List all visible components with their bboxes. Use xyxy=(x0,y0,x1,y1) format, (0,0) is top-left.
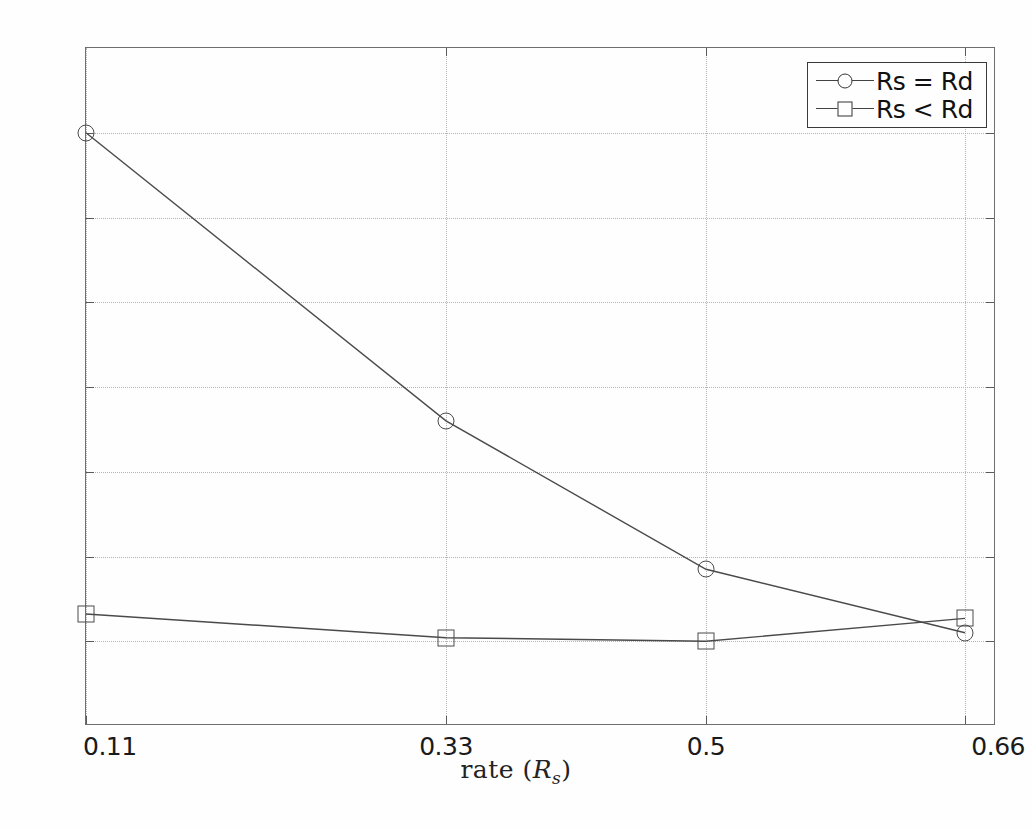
data-point-marker-circle xyxy=(698,561,715,578)
series-line-rs-eq-rd xyxy=(86,133,965,633)
legend-item-rs-eq-rd[interactable]: Rs = Rd xyxy=(814,67,980,95)
data-point-marker-square xyxy=(957,610,974,627)
data-point-marker-square xyxy=(438,629,455,646)
plot-area: 11 10 9 8 7 6 5 4 3 0.11 0.33 0.5 0.66 xyxy=(85,47,995,725)
x-axis-title-suffix: ) xyxy=(561,755,571,784)
x-axis-title: rate (Rs) xyxy=(0,755,1032,788)
x-axis-title-variable: R xyxy=(533,755,552,784)
square-marker-icon xyxy=(814,97,876,121)
series-line-rs-lt-rd xyxy=(86,614,965,641)
chart-page: 11 10 9 8 7 6 5 4 3 0.11 0.33 0.5 0.66 xyxy=(0,0,1032,828)
legend-item-rs-lt-rd[interactable]: Rs < Rd xyxy=(814,95,980,123)
x-axis-title-subscript: s xyxy=(552,768,561,788)
legend[interactable]: Rs = Rd Rs < Rd xyxy=(807,62,987,128)
x-axis-title-prefix: rate ( xyxy=(460,755,532,784)
circle-marker-icon xyxy=(814,69,876,93)
series-lines xyxy=(86,48,996,726)
data-point-marker-circle xyxy=(78,124,95,141)
data-point-marker-square xyxy=(698,633,715,650)
legend-label: Rs = Rd xyxy=(876,69,973,94)
legend-label: Rs < Rd xyxy=(876,97,973,122)
data-point-marker-circle xyxy=(438,412,455,429)
data-point-marker-square xyxy=(78,606,95,623)
